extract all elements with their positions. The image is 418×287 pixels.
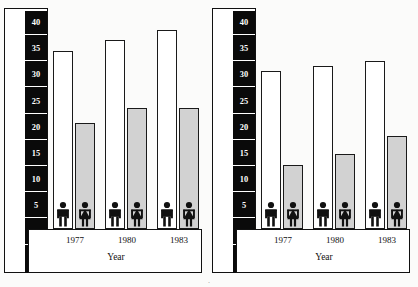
bar-group-1983 [364, 11, 410, 229]
x-axis-title-indoor: Year [237, 252, 411, 262]
x-axis-tick-1977: 1977 [49, 235, 101, 245]
female-figure-icon [387, 201, 407, 227]
x-axis-tick-labels-indoor: 197719801983 [237, 235, 411, 249]
y-axis-tick-15: 15 [233, 142, 255, 166]
bar-group-1980 [104, 11, 150, 229]
male-figure-icon [365, 201, 385, 227]
x-axis-tick-1977: 1977 [257, 235, 309, 245]
y-axis-tick-40: 40 [25, 11, 47, 35]
x-axis-box-indoor: 197719801983 Year [236, 229, 410, 273]
y-axis-tick-5: 5 [25, 194, 47, 218]
bar-group-1977 [52, 11, 98, 229]
y-axis-tick-20: 20 [25, 116, 47, 140]
x-axis-title-outdoor: Year [29, 252, 203, 262]
y-axis-tick-25: 25 [25, 90, 47, 114]
bar-male-1983 [157, 30, 177, 229]
x-axis-tick-1983: 1983 [361, 235, 413, 245]
y-axis-tick-35: 35 [25, 37, 47, 61]
y-axis-tick-10: 10 [233, 168, 255, 192]
plot-area-outdoor [50, 11, 202, 229]
bar-group-1977 [260, 11, 306, 229]
x-axis-tick-1980: 1980 [309, 235, 361, 245]
y-axis-tick-35: 35 [233, 37, 255, 61]
female-figure-icon [75, 201, 95, 227]
y-axis-tick-5: 5 [233, 194, 255, 218]
male-figure-icon [261, 201, 281, 227]
female-figure-icon [283, 201, 303, 227]
female-figure-icon [179, 201, 199, 227]
y-axis-tick-30: 30 [25, 63, 47, 87]
plot-area-indoor [258, 11, 410, 229]
page-artifact-mark: . [207, 279, 211, 283]
male-figure-icon [105, 201, 125, 227]
y-axis-tick-40: 40 [233, 11, 255, 35]
male-figure-icon [313, 201, 333, 227]
female-figure-icon [127, 201, 147, 227]
male-figure-icon [53, 201, 73, 227]
x-axis-box-outdoor: 197719801983 Year [28, 229, 202, 273]
x-axis-tick-1980: 1980 [101, 235, 153, 245]
bar-group-1980 [312, 11, 358, 229]
y-axis-tick-15: 15 [25, 142, 47, 166]
bar-group-1983 [156, 11, 202, 229]
y-axis-tick-20: 20 [233, 116, 255, 140]
x-axis-tick-labels-outdoor: 197719801983 [29, 235, 203, 249]
y-axis-tick-10: 10 [25, 168, 47, 192]
figure-sheet: Participating in ouodoor activity in pre… [0, 0, 418, 287]
y-axis-tick-25: 25 [233, 90, 255, 114]
chart-panel-indoor: Participating in indoor activity in prev… [212, 8, 412, 280]
x-axis-tick-1983: 1983 [153, 235, 205, 245]
chart-panel-outdoor: Participating in ouodoor activity in pre… [4, 8, 204, 280]
y-axis-tick-30: 30 [233, 63, 255, 87]
female-figure-icon [335, 201, 355, 227]
male-figure-icon [157, 201, 177, 227]
